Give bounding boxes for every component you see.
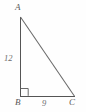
vertex-label-b: B — [15, 98, 21, 107]
side-length-label-vertical: 12 — [4, 54, 13, 63]
right-angle-marker — [21, 89, 28, 96]
vertex-label-a: A — [15, 3, 21, 12]
right-triangle-figure: A B C 12 9 — [0, 0, 86, 112]
vertex-label-c: C — [69, 98, 75, 107]
side-length-label-horizontal: 9 — [42, 99, 46, 108]
side-ca-line — [21, 17, 75, 96]
